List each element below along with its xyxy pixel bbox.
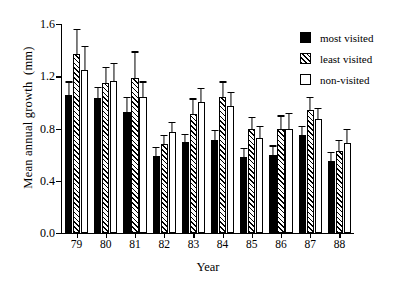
error-bar-cap [182, 134, 189, 135]
error-bar-stem [230, 92, 231, 106]
error-bar-least-84 [219, 81, 226, 97]
error-bar-stem [272, 145, 273, 154]
bar-most-87 [299, 135, 306, 233]
bar-non-81 [139, 97, 146, 233]
bar-most-88 [328, 161, 335, 233]
bar-chart-figure: Mean annual growth (mm) 0.00.40.81.21.6 … [0, 0, 401, 296]
bar-most-84 [211, 140, 218, 233]
error-bar-cap [344, 129, 351, 130]
error-bar-cap [161, 135, 168, 136]
error-bar-cap [198, 88, 205, 89]
error-bar-cap [139, 81, 146, 82]
error-bar-stem [172, 122, 173, 132]
bar-least-82 [161, 144, 168, 233]
error-bar-most-85 [240, 148, 247, 157]
x-tick-label: 88 [334, 239, 346, 251]
y-tick-mark [56, 129, 62, 130]
error-bar-non-81 [139, 81, 146, 97]
bar-non-83 [198, 102, 205, 233]
legend-label: least visited [320, 53, 372, 65]
error-bar-cap [328, 152, 335, 153]
error-bar-cap [131, 51, 138, 52]
error-bar-cap [190, 98, 197, 99]
error-bar-cap [153, 147, 160, 148]
bar-least-79 [73, 54, 80, 233]
error-bar-stem [142, 81, 143, 97]
error-bar-most-84 [211, 130, 218, 140]
error-bar-cap [285, 113, 292, 114]
bar-non-87 [315, 119, 322, 233]
error-bar-least-81 [131, 51, 138, 77]
x-tick-label: 79 [71, 239, 83, 251]
y-tick-label: 1.2 [40, 70, 55, 82]
error-bar-stem [288, 113, 289, 129]
hatched-swatch [300, 53, 311, 64]
error-bar-cap [102, 67, 109, 68]
error-bar-stem [347, 129, 348, 143]
bar-non-80 [110, 81, 117, 233]
error-bar-cap [110, 63, 117, 64]
x-tick-label: 80 [100, 239, 112, 251]
legend-label: non-visited [320, 74, 370, 86]
bar-non-88 [344, 143, 351, 233]
error-bar-cap [336, 140, 343, 141]
error-bar-cap [299, 126, 306, 127]
y-axis-title: Mean annual growth (mm) [21, 8, 36, 228]
y-tick-mark [56, 181, 62, 182]
chart-legend: most visitedleast visitednon-visited [300, 29, 373, 92]
error-bar-cap [65, 81, 72, 82]
solid-black-swatch [300, 32, 311, 43]
error-bar-non-88 [344, 129, 351, 143]
bar-most-85 [240, 157, 247, 233]
error-bar-stem [68, 81, 69, 94]
bar-non-86 [285, 129, 292, 234]
error-bar-stem [302, 126, 303, 135]
error-bar-least-80 [102, 67, 109, 83]
error-bar-most-83 [182, 134, 189, 142]
error-bar-least-79 [73, 29, 80, 54]
error-bar-most-86 [269, 145, 276, 154]
error-bar-cap [269, 145, 276, 146]
bar-most-82 [153, 156, 160, 233]
legend-item-non: non-visited [300, 71, 373, 88]
error-bar-cap [123, 97, 130, 98]
error-bar-cap [81, 46, 88, 47]
bar-least-87 [307, 110, 314, 233]
error-bar-non-85 [256, 126, 263, 138]
error-bar-stem [185, 134, 186, 142]
x-tick-label: 87 [304, 239, 316, 251]
error-bar-cap [277, 115, 284, 116]
legend-label: most visited [320, 32, 373, 44]
x-tick-label: 86 [275, 239, 287, 251]
x-tick-label: 83 [188, 239, 200, 251]
error-bar-most-88 [328, 152, 335, 161]
error-bar-stem [76, 29, 77, 54]
error-bar-most-87 [299, 126, 306, 135]
error-bar-stem [97, 87, 98, 99]
bar-least-85 [248, 129, 255, 234]
error-bar-least-87 [307, 97, 314, 110]
error-bar-least-83 [190, 98, 197, 114]
error-bar-least-88 [336, 140, 343, 150]
error-bar-least-86 [277, 115, 284, 128]
bar-most-80 [94, 98, 101, 233]
error-bar-cap [227, 92, 234, 93]
x-tick-label: 85 [246, 239, 258, 251]
error-bar-least-82 [161, 135, 168, 144]
bar-least-88 [336, 151, 343, 233]
error-bar-cap [94, 87, 101, 88]
error-bar-non-80 [110, 63, 117, 81]
error-bar-stem [113, 63, 114, 81]
y-tick-mark [56, 76, 62, 77]
y-tick-label: 0.8 [40, 123, 55, 135]
y-tick-label: 1.6 [40, 18, 55, 30]
error-bar-most-82 [153, 147, 160, 156]
error-bar-cap [211, 130, 218, 131]
error-bar-stem [156, 147, 157, 156]
error-bar-non-86 [285, 113, 292, 129]
bar-non-79 [81, 70, 88, 233]
legend-item-least: least visited [300, 50, 373, 67]
bar-non-82 [169, 132, 176, 233]
error-bar-stem [84, 46, 85, 70]
error-bar-stem [105, 67, 106, 83]
